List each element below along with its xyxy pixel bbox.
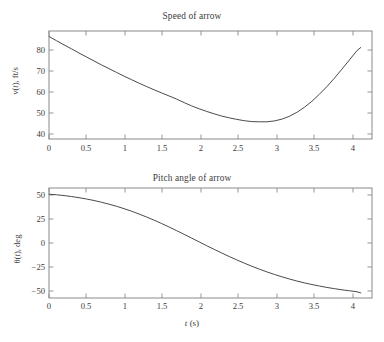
chart-panel-pitch: Pitch angle of arrow θ(t), deg 50 25 0 −… [0,170,384,342]
y-tick-marks [49,195,372,291]
plot-area-pitch [0,170,384,342]
data-curve-pitch [49,194,361,293]
chart-panel-speed: Speed of arrow v(t), ft/s 80 70 60 50 40… [0,0,384,171]
figure-container: Speed of arrow v(t), ft/s 80 70 60 50 40… [0,0,384,342]
data-curve-speed [49,37,361,122]
plot-frame [49,188,372,298]
x-tick-marks [49,31,353,139]
plot-frame [49,31,372,139]
plot-area-speed [0,0,384,171]
